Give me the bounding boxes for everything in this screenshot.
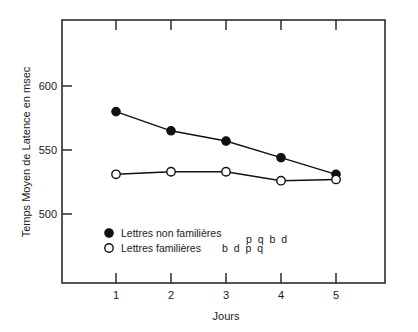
data-point-s1-d1 [112, 170, 120, 178]
y-axis-ticks [62, 86, 72, 214]
data-point-s0-d4 [277, 153, 285, 161]
data-point-s0-d1 [112, 107, 120, 115]
data-point-s0-d3 [222, 137, 230, 145]
chart-legend: Lettres non familières b d p q Lettres f… [105, 227, 289, 254]
x-tick-label-1: 1 [113, 289, 119, 301]
x-tick-label-4: 4 [278, 289, 284, 301]
y-tick-label-500: 500 [39, 208, 57, 220]
data-point-s1-d4 [277, 177, 285, 185]
x-tick-label-3: 3 [223, 289, 229, 301]
legend-open-circle-marker [105, 244, 113, 252]
data-point-s1-d5 [332, 175, 340, 183]
data-point-s1-d3 [222, 168, 230, 176]
x-axis-title: Jours [213, 310, 240, 322]
data-point-s0-d2 [167, 127, 175, 135]
legend-label-non-familieres: Lettres non familières [121, 227, 221, 239]
legend-label-familieres: Lettres familières [121, 242, 201, 254]
legend-glyphs-normal: b d p q [222, 242, 265, 254]
chart-figure: 600 550 500 1 2 3 4 5 Jours Temps Moyen … [0, 0, 418, 332]
y-tick-label-550: 550 [39, 144, 57, 156]
x-axis-ticks-bottom [116, 273, 336, 283]
x-tick-label-5: 5 [333, 289, 339, 301]
x-axis-ticks-top [116, 20, 336, 30]
y-axis-title: Temps Moyen de Latence en msec [20, 66, 32, 237]
x-tick-label-2: 2 [168, 289, 174, 301]
series-layer [112, 107, 340, 185]
legend-filled-circle-marker [105, 229, 113, 237]
line-chart: 600 550 500 1 2 3 4 5 Jours Temps Moyen … [0, 0, 418, 332]
y-tick-label-600: 600 [39, 80, 57, 92]
data-point-s1-d2 [167, 168, 175, 176]
